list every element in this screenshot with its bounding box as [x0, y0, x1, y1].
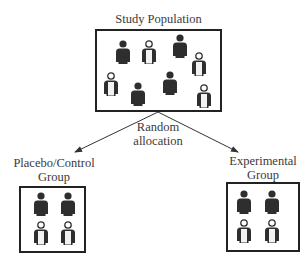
person-icon-light: [197, 85, 211, 108]
control-group-title-line2: Group: [4, 170, 104, 184]
person-icon-light: [104, 73, 118, 96]
person-icon-light: [142, 41, 156, 64]
study-population-people: [104, 34, 211, 108]
person-icon-light: [192, 53, 206, 76]
control-group-box: [19, 186, 86, 253]
control-group-title-line1: Placebo/Control: [4, 156, 104, 170]
split-label-line2: allocation: [128, 134, 188, 148]
person-icon-dark: [131, 82, 145, 106]
person-icon-dark: [173, 34, 187, 58]
experimental-group-box: [226, 182, 300, 252]
split-label-line1: Random: [128, 120, 188, 134]
experimental-group-title-line1: Experimental: [217, 154, 307, 168]
person-icon-dark: [163, 71, 177, 95]
experimental-group-title-line2: Group: [217, 168, 307, 182]
person-icon-dark: [116, 40, 130, 64]
